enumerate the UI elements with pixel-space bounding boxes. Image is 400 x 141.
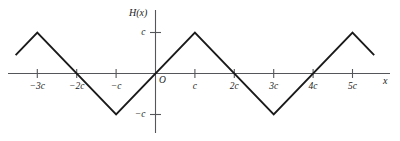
x-axis-label: x	[383, 76, 387, 86]
x-tick-label-5: 3c	[260, 82, 288, 92]
origin-label: O	[159, 76, 166, 86]
x-tick-label-6: 4c	[299, 82, 327, 92]
graph-canvas	[0, 0, 400, 141]
x-tick-label-7: 5c	[339, 82, 367, 92]
x-tick-label-4: 2c	[220, 82, 248, 92]
triangular-wave-figure: H(x) x O −3c−2c−cc2c3c4c5c c−c	[0, 0, 400, 141]
x-tick-label-0: −3c	[23, 82, 51, 92]
y-axis-label: H(x)	[129, 8, 147, 18]
x-tick-label-1: −2c	[63, 82, 91, 92]
y-tick-label-0: c	[122, 28, 146, 38]
axis-group	[8, 10, 390, 133]
x-tick-label-2: −c	[102, 82, 130, 92]
x-tick-label-3: c	[181, 82, 209, 92]
y-tick-label-1: −c	[122, 110, 146, 120]
